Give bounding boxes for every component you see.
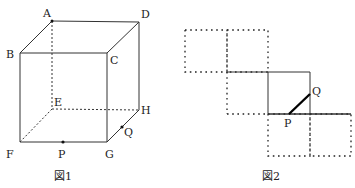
edge-CD <box>107 22 139 53</box>
label-H: H <box>141 104 151 117</box>
label-G: G <box>105 148 114 161</box>
segment-PQ <box>289 94 310 114</box>
label-P-net: P <box>284 117 292 130</box>
hidden-edge-EH <box>52 109 139 110</box>
label-B: B <box>6 48 14 61</box>
hidden-edge-EF <box>20 109 52 142</box>
label-F: F <box>6 148 14 161</box>
point-P-dot <box>61 140 64 143</box>
label-D: D <box>141 8 150 21</box>
label-P: P <box>58 148 66 161</box>
net-face-top-left <box>185 30 227 72</box>
diagram-canvas: A B C D E F G H P Q 図1 Q P 図2 <box>0 0 355 188</box>
figure2-caption: 図2 <box>262 170 280 183</box>
net-face-top-right <box>227 30 268 72</box>
edge-BA <box>20 21 52 53</box>
edge-AD <box>52 21 139 22</box>
label-Q-net: Q <box>312 85 321 98</box>
net-face-bottom-right <box>310 114 351 156</box>
label-A: A <box>42 7 52 20</box>
front-face <box>20 53 107 142</box>
label-C: C <box>110 54 118 67</box>
figure1-caption: 図1 <box>54 170 72 183</box>
figure1-cube: A B C D E F G H P Q 図1 <box>6 7 151 183</box>
label-Q: Q <box>124 126 133 139</box>
figure2-net: Q P 図2 <box>185 30 351 183</box>
label-E: E <box>54 96 62 109</box>
